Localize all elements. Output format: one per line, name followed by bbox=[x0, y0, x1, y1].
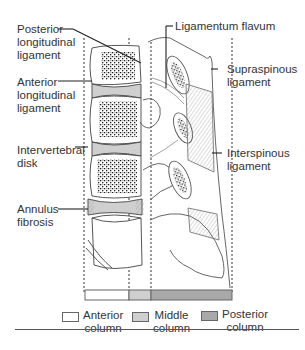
legend-label-anterior: Anterior column bbox=[83, 309, 123, 335]
label-annulus-fibrosis: Annulus fibrosis bbox=[17, 203, 59, 229]
legend-label-middle: Middle column bbox=[153, 309, 190, 335]
label-supraspinous-ligament: Supraspinous ligament bbox=[227, 63, 297, 89]
label-posterior-longitudinal-ligament: Posterior longitudinal ligament bbox=[17, 23, 75, 62]
label-ligamentum-flavum: Ligamentum flavum bbox=[175, 20, 275, 33]
label-interspinous-ligament: Interspinous ligament bbox=[227, 147, 290, 173]
legend-anterior-column: Anterior column bbox=[62, 309, 123, 335]
posterior-elements bbox=[140, 38, 230, 289]
column-bar bbox=[85, 290, 232, 300]
legend-swatch-anterior bbox=[62, 312, 79, 322]
legend-label-posterior: Posterior column bbox=[222, 308, 268, 334]
label-intervertebral-disk: Intervertebral disk bbox=[17, 144, 85, 170]
legend-swatch-middle bbox=[132, 312, 149, 322]
label-anterior-longitudinal-ligament: Anterior longitudinal ligament bbox=[17, 76, 75, 115]
bottom-divider bbox=[15, 329, 299, 330]
legend-middle-column: Middle column bbox=[132, 309, 190, 335]
legend-swatch-posterior bbox=[201, 311, 218, 321]
vertebral-bodies bbox=[86, 45, 144, 270]
legend-posterior-column: Posterior column bbox=[201, 308, 268, 334]
